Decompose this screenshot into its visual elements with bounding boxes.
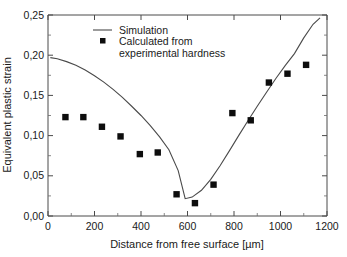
data-point-marker (210, 181, 216, 187)
data-point-marker (284, 70, 290, 76)
data-point-marker (137, 151, 143, 157)
chart-figure: 0 200 400 600 800 1000 1200 (0, 0, 347, 257)
x-tick-label: 200 (86, 220, 104, 232)
y-tick-label: 0,20 (24, 49, 45, 61)
y-axis-title: Equivalent plastic strain (1, 57, 13, 173)
plot-canvas: 0 200 400 600 800 1000 1200 (0, 0, 347, 257)
y-tick-label: 0,05 (24, 169, 45, 181)
x-tick-label: 600 (179, 220, 197, 232)
data-point-marker (248, 117, 254, 123)
y-tick-label: 0,00 (24, 210, 45, 222)
data-point-marker (80, 114, 86, 120)
legend-label-calculated-line2: experimental hardness (119, 47, 225, 59)
x-tick-label: 800 (225, 220, 243, 232)
legend-label-simulation: Simulation (119, 24, 168, 36)
legend-label-calculated-line1: Calculated from (119, 35, 193, 47)
data-point-marker (99, 124, 105, 130)
legend-square-marker-icon (100, 38, 106, 44)
data-point-marker (173, 191, 179, 197)
x-tick-label: 1000 (269, 220, 293, 232)
y-tick-label: 0,15 (24, 89, 45, 101)
y-tick-label: 0,10 (24, 129, 45, 141)
data-point-marker (303, 62, 309, 68)
y-tick-label: 0,25 (24, 9, 45, 21)
data-point-marker (117, 133, 123, 139)
data-point-marker (266, 79, 272, 85)
legend: Simulation Calculated from experimental … (93, 24, 225, 59)
data-point-marker (62, 114, 68, 120)
x-tick-label: 0 (45, 220, 51, 232)
x-tick-label: 400 (132, 220, 150, 232)
data-point-marker (192, 200, 198, 206)
data-point-marker (155, 149, 161, 155)
x-axis-title: Distance from free surface [µm] (110, 238, 264, 250)
x-tick-label: 1200 (315, 220, 339, 232)
data-point-marker (229, 110, 235, 116)
